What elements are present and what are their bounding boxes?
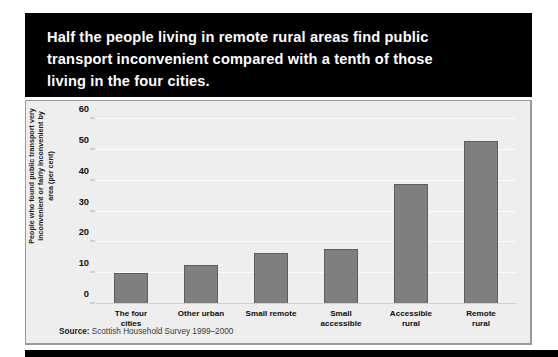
bottom-band <box>25 350 558 357</box>
bar-category-label: Remote rural <box>444 309 518 329</box>
bar-slot: Accessible rural <box>376 119 446 304</box>
y-axis-label: People who found public transport very i… <box>20 101 64 251</box>
bar-slot: Small accessible <box>306 119 376 304</box>
y-tick-mark <box>90 179 95 180</box>
y-tick-label: 30 <box>79 197 89 207</box>
bar-slot: Small remote <box>236 119 306 304</box>
title-banner: Half the people living in remote rural a… <box>25 13 532 97</box>
chart-figure: Half the people living in remote rural a… <box>0 0 558 357</box>
y-tick-mark <box>90 272 95 273</box>
y-tick-label: 40 <box>79 166 89 176</box>
bar-slot: The four cities <box>96 119 166 304</box>
bar[interactable] <box>324 249 358 305</box>
y-tick-mark <box>90 210 95 211</box>
bar[interactable] <box>114 273 148 304</box>
bar-category-label: Small remote <box>234 309 308 319</box>
source-label: Source: <box>59 327 89 336</box>
y-tick-mark <box>90 303 95 304</box>
x-axis-baseline <box>96 303 516 304</box>
y-tick-label: 0 <box>84 289 89 299</box>
y-tick-label: 20 <box>79 227 89 237</box>
y-tick-mark <box>90 241 95 242</box>
bar[interactable] <box>184 265 218 304</box>
bar[interactable] <box>254 253 288 304</box>
bar-slot: Other urban <box>166 119 236 304</box>
bar[interactable] <box>464 141 498 304</box>
bar-category-label: The four cities <box>94 309 168 329</box>
bar-category-label: Other urban <box>164 309 238 319</box>
y-tick-label: 50 <box>79 135 89 145</box>
source-text: Scottish Household Survey 1999–2000 <box>89 327 233 336</box>
y-tick-label: 10 <box>79 258 89 268</box>
bar-category-label: Small accessible <box>304 309 378 329</box>
chart-panel: People who found public transport very i… <box>25 100 532 345</box>
bar-slot: Remote rural <box>446 119 516 304</box>
plot-area: 0102030405060 The four citiesOther urban… <box>96 119 516 304</box>
bar-category-label: Accessible rural <box>374 309 448 329</box>
page-title: Half the people living in remote rural a… <box>47 26 510 92</box>
y-tick-label: 60 <box>79 104 89 114</box>
y-tick-mark <box>90 148 95 149</box>
bar[interactable] <box>394 184 428 304</box>
y-tick-mark <box>90 118 95 119</box>
source-note: Source: Scottish Household Survey 1999–2… <box>59 327 233 336</box>
